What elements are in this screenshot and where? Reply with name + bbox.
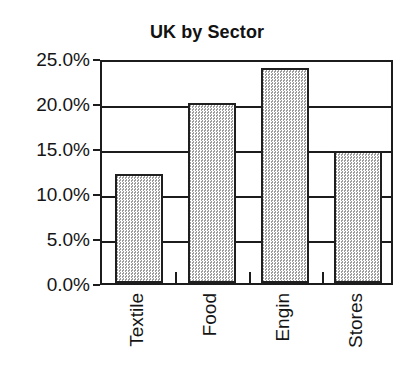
y-tick-label: 0.0% [47, 274, 90, 296]
x-tick-label: Textile [126, 293, 148, 347]
y-tick-mark [93, 239, 100, 241]
x-label-slot: Stores [320, 289, 393, 384]
bar-chart: UK by Sector 0.0%5.0%10.0%15.0%20.0%25.0… [0, 0, 414, 384]
x-tick-label: Food [199, 293, 221, 336]
x-label-slot: Food [173, 289, 246, 384]
y-tick-label: 20.0% [36, 94, 90, 116]
bars-group [102, 62, 391, 283]
x-label-slot: Engin [247, 289, 320, 384]
y-axis: 0.0%5.0%10.0%15.0%20.0%25.0% [0, 0, 96, 384]
y-tick-mark [93, 149, 100, 151]
y-tick-mark [93, 284, 100, 286]
bar-textile[interactable] [115, 174, 163, 283]
y-tick-label: 10.0% [36, 184, 90, 206]
plot-area [100, 60, 393, 285]
bar-stores[interactable] [334, 151, 382, 283]
x-tick-mark [249, 272, 251, 283]
x-tick-mark [175, 272, 177, 283]
y-tick-label: 5.0% [47, 229, 90, 251]
bar-engin[interactable] [261, 68, 309, 283]
x-tick-mark [322, 272, 324, 283]
y-tick-mark [93, 194, 100, 196]
x-axis-labels: TextileFoodEnginStores [100, 289, 393, 384]
y-tick-mark [93, 59, 100, 61]
y-tick-mark [93, 104, 100, 106]
x-label-slot: Textile [100, 289, 173, 384]
y-tick-label: 15.0% [36, 139, 90, 161]
x-tick-label: Engin [272, 293, 294, 342]
y-tick-label: 25.0% [36, 49, 90, 71]
x-tick-label: Stores [345, 293, 367, 348]
bar-food[interactable] [188, 103, 236, 283]
